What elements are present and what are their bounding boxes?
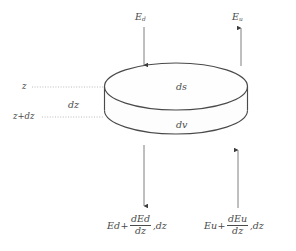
expr-operator: +: [217, 221, 226, 231]
expr-operator: +: [120, 221, 129, 231]
thickness-label: dz: [68, 100, 79, 110]
volume-element-label: dv: [176, 120, 187, 130]
bottom-left-flux-expression: Ed + dEd dz ,dz: [107, 214, 167, 237]
depth-top-label: z: [22, 82, 26, 91]
radiative-transfer-diagram: Ed Eu ds dv z dz z+dz Ed + dEd dz ,dz Eu…: [0, 0, 296, 251]
depth-bottom-label: z+dz: [13, 112, 35, 121]
bottom-right-flux-expression: Eu + dEu dz ,dz: [204, 214, 264, 237]
expr-tail: ,dz: [249, 221, 264, 231]
expr-denominator: dz: [130, 225, 151, 237]
top-left-flux-label: Ed: [135, 12, 146, 23]
expr-numerator: dEu: [227, 214, 248, 225]
expr-fraction: dEu dz: [227, 214, 248, 237]
top-right-flux-label: Eu: [232, 12, 243, 23]
expr-denominator: dz: [227, 225, 248, 237]
expr-fraction: dEd dz: [130, 214, 151, 237]
expr-numerator: dEd: [130, 214, 151, 225]
surface-element-label: ds: [176, 82, 187, 92]
expr-lead: Ed: [107, 221, 120, 231]
expr-tail: ,dz: [152, 221, 167, 231]
expr-lead: Eu: [204, 221, 217, 231]
